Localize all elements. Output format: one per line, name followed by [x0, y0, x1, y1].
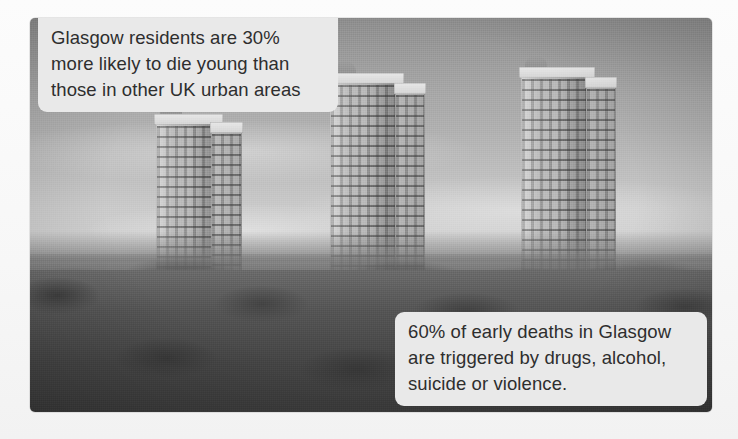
caption-early-death-statistic: Glasgow residents are 30% more likely to…	[38, 18, 338, 112]
screenshot-root: Glasgow residents are 30% more likely to…	[0, 0, 738, 439]
tower-left-wing-rooftop	[210, 122, 243, 133]
tower-middle-wing-rooftop	[394, 83, 426, 94]
caption-early-death-causes: 60% of early deaths in Glasgow are trigg…	[395, 312, 707, 406]
tower-right-wing-rooftop	[585, 77, 617, 88]
